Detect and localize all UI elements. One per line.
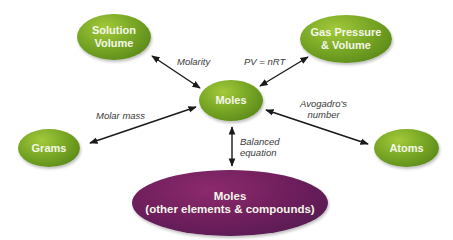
edge-label-balanced-equation: Balanced equation [240,136,280,158]
node-gas-line1: Gas Pressure [311,26,382,39]
edge-label-molar-mass: Molar mass [96,110,145,121]
node-solution-volume-line1: Solution [92,24,136,37]
node-gas-line2: & Volume [311,39,382,52]
node-grams-label: Grams [32,142,67,155]
node-moles-other-line1: Moles [145,190,314,203]
node-moles-other: Moles(other elements & compounds) [132,170,328,236]
edge-label-avogadro-line2: number [300,109,347,120]
node-moles: Moles [199,80,263,121]
edge-label-avogadro-line1: Avogadro's [300,98,347,109]
edge-label-balanced-line1: Balanced [240,136,280,147]
node-atoms-label: Atoms [389,142,423,155]
node-moles-other-line2: (other elements & compounds) [145,203,314,216]
node-atoms: Atoms [374,129,439,167]
edge-label-molarity: Molarity [177,56,210,67]
edge-label-balanced-line2: equation [240,147,280,158]
node-grams: Grams [18,129,80,167]
node-solution-volume: SolutionVolume [77,14,151,60]
node-gas-pressure-volume: Gas Pressure& Volume [300,15,392,63]
node-solution-volume-line2: Volume [92,37,136,50]
edge-label-gas-law: PV = nRT [244,56,285,67]
node-moles-label: Moles [215,94,246,107]
edge-label-avogadro: Avogadro's number [300,98,347,120]
